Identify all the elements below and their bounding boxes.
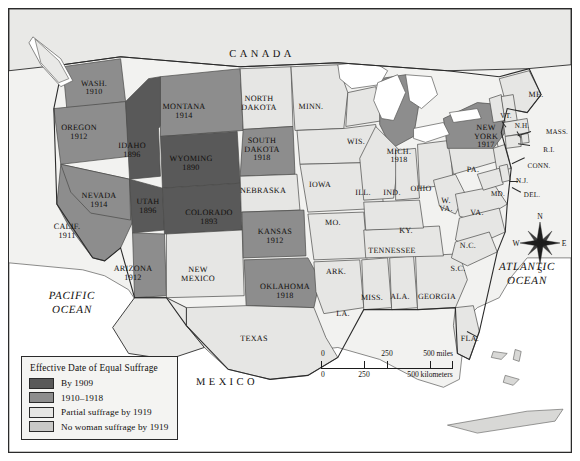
scale-km-tick-0: 0 [321, 370, 325, 379]
legend-label: No woman suffrage by 1919 [61, 422, 168, 432]
scale-km-tick-2: 500 kilometers [407, 370, 452, 379]
legend-title: Effective Date of Equal Suffrage [30, 363, 168, 373]
map-frame: .s { stroke:#4a4a48; stroke-width:0.7; }… [8, 8, 572, 453]
compass-label-west: W [512, 239, 519, 248]
legend-swatch [29, 407, 54, 418]
legend-label: Partial suffrage by 1919 [61, 407, 152, 417]
compass-label-east: E [562, 239, 567, 248]
scale-miles-tick-0: 0 [321, 349, 325, 358]
legend-item: No woman suffrage by 1919 [29, 421, 168, 432]
legend-item: 1910–1918 [29, 392, 168, 403]
scale-bar: 0 250 500 miles 0 250 500 kilometers [321, 348, 453, 380]
compass-label-south: S [538, 266, 542, 275]
legend-swatch [29, 392, 54, 403]
legend-swatch [29, 378, 54, 389]
scale-km-tick-1: 250 [358, 370, 369, 379]
scale-miles-tick-1: 250 [381, 349, 392, 358]
legend-item: Partial suffrage by 1919 [29, 407, 168, 418]
suffrage-map-figure: .s { stroke:#4a4a48; stroke-width:0.7; }… [0, 0, 580, 461]
legend-label: By 1909 [61, 378, 93, 388]
compass-label-north: N [537, 212, 542, 221]
scale-axis [321, 359, 453, 369]
legend-swatch [29, 421, 54, 432]
scale-km-labels: 0 250 500 kilometers [321, 369, 453, 380]
legend-label: 1910–1918 [61, 393, 103, 403]
scale-miles-tick-2: 500 miles [423, 349, 453, 358]
map-legend: Effective Date of Equal Suffrage By 1909… [21, 356, 178, 441]
compass-rose: N E S W [512, 212, 568, 274]
scale-miles-labels: 0 250 500 miles [321, 348, 453, 359]
legend-rows: By 19091910–1918Partial suffrage by 1919… [29, 378, 168, 433]
legend-item: By 1909 [29, 378, 168, 389]
